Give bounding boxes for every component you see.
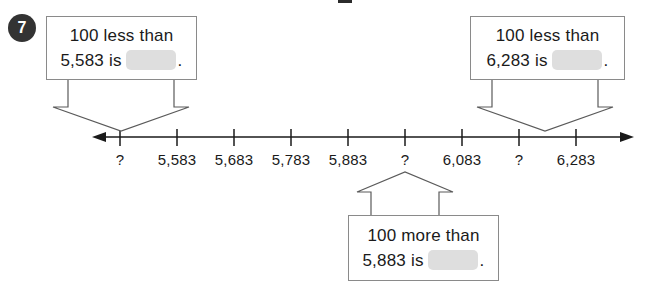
callout-left-line1: 100 less than — [47, 26, 196, 46]
callout-right-prefix: 6,283 is — [486, 51, 547, 70]
worksheet-page: 7 ? 5,583 5,683 5,783 5,883 ? 6,083 ? — [0, 0, 645, 290]
callout-bottom-period: . — [480, 251, 485, 270]
callout-left-period: . — [178, 51, 183, 70]
pointer-arrow-up-bottom — [357, 172, 453, 215]
callout-box-right: 100 less than 6,283 is. — [470, 16, 625, 80]
callout-box-left: 100 less than 5,583 is. — [46, 16, 197, 80]
callout-right-line2: 6,283 is. — [471, 50, 624, 71]
callout-right-period: . — [604, 51, 609, 70]
answer-blank-left[interactable] — [126, 50, 176, 70]
axis-arrowhead-left — [92, 132, 106, 142]
callout-right-line1: 100 less than — [471, 26, 624, 46]
answer-blank-bottom[interactable] — [428, 250, 478, 270]
callout-left-line2: 5,583 is. — [47, 50, 196, 71]
callout-box-bottom: 100 more than 5,883 is. — [348, 215, 499, 281]
callout-left-prefix: 5,583 is — [60, 51, 121, 70]
answer-blank-right[interactable] — [552, 50, 602, 70]
axis-arrowhead-right — [620, 132, 634, 142]
callout-bottom-line2: 5,883 is. — [349, 250, 498, 271]
pointer-arrow-down-right — [477, 80, 613, 131]
tick-label-8: 6,283 — [541, 151, 611, 168]
pointer-arrow-down-left — [53, 80, 189, 131]
callout-bottom-prefix: 5,883 is — [362, 251, 423, 270]
callout-bottom-line1: 100 more than — [349, 226, 498, 246]
